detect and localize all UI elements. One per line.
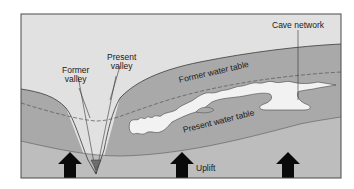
cave-network-label: Cave network [272, 21, 324, 30]
present-valley-label-line2: valley [107, 62, 136, 71]
former-valley-label: Former valley [62, 66, 89, 84]
present-valley-label: Present valley [107, 53, 136, 71]
former-valley-label-line2: valley [62, 75, 89, 84]
cave-formation-diagram: Former valley Present valley Cave networ… [0, 0, 354, 189]
uplift-label: Uplift [196, 164, 215, 173]
